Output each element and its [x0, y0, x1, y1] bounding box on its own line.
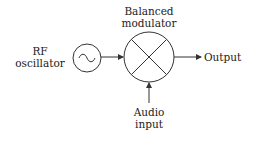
- oscillator-symbol: [73, 44, 101, 72]
- output-label: Output: [204, 51, 241, 63]
- modulator-label: Balanced modulator: [114, 5, 184, 29]
- audio-label: Audio input: [124, 106, 174, 130]
- modulator-label-line1: Balanced: [114, 5, 184, 17]
- output-label-text: Output: [204, 51, 241, 63]
- oscillator-label: RF oscillator: [10, 45, 70, 69]
- audio-label-line2: input: [124, 118, 174, 130]
- oscillator-label-line1: RF: [10, 45, 70, 57]
- sine-wave-icon: [79, 54, 95, 62]
- oscillator-label-line2: oscillator: [10, 57, 70, 69]
- modulator-symbol: [124, 32, 174, 82]
- audio-label-line1: Audio: [124, 106, 174, 118]
- modulator-label-line2: modulator: [114, 17, 184, 29]
